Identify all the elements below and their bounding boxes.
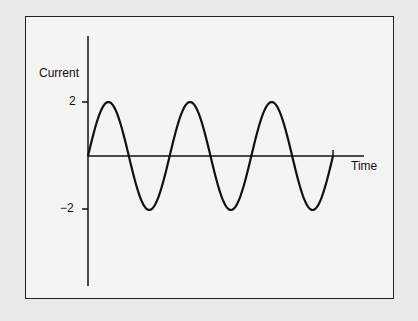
ytick-label-neg2: −2 <box>60 201 74 215</box>
ytick-label-2: 2 <box>69 94 76 108</box>
x-axis-label: Time <box>351 159 377 173</box>
y-axis-label: Current <box>39 66 79 80</box>
